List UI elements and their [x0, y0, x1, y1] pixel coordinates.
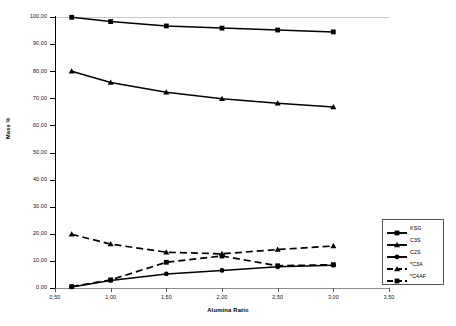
data-point-marker [275, 263, 280, 268]
data-point-marker [220, 26, 225, 31]
data-point-marker [395, 231, 400, 236]
data-point-marker [69, 284, 74, 289]
data-point-marker [395, 279, 400, 284]
series-line [72, 265, 334, 287]
data-point-marker [69, 231, 75, 236]
legend-item-c4af[interactable]: *C4AF [386, 271, 441, 283]
data-point-marker [220, 268, 225, 273]
legend-swatch-icon [386, 272, 408, 282]
data-point-marker [69, 15, 74, 20]
data-point-marker [330, 243, 336, 248]
legend-item-c2s[interactable]: C2S [386, 247, 441, 259]
series-ksg [69, 15, 335, 34]
data-point-marker [395, 255, 400, 260]
legend-label: C2S [410, 250, 421, 255]
chart-figure: 0,0010,0020,0030,0040,0050,0060,0070,008… [0, 0, 456, 326]
legend-swatch-icon [386, 248, 408, 258]
legend-item-c3s[interactable]: C3S [386, 235, 441, 247]
legend-label: *C3A [410, 262, 423, 267]
data-point-marker [164, 24, 169, 29]
chart-legend: KSGC3SC2S*C3A*C4AF [382, 219, 444, 285]
legend-label: *C4AF [410, 274, 426, 279]
data-point-marker [108, 19, 113, 24]
data-point-marker [108, 277, 113, 282]
data-point-marker [164, 272, 169, 277]
data-point-marker [275, 28, 280, 33]
series-line [72, 71, 334, 107]
data-point-marker [164, 260, 169, 265]
legend-swatch-icon [386, 236, 408, 246]
data-point-marker [331, 262, 336, 267]
data-point-marker [220, 254, 225, 259]
legend-item-c3a[interactable]: *C3A [386, 259, 441, 271]
legend-item-ksg[interactable]: KSG [386, 223, 441, 235]
legend-label: C3S [410, 238, 421, 243]
series-c3s [69, 68, 337, 109]
series-c2s [69, 263, 335, 289]
data-point-marker [69, 68, 75, 73]
legend-swatch-icon [386, 260, 408, 270]
legend-swatch-icon [386, 224, 408, 234]
legend-label: KSG [410, 226, 422, 231]
data-point-marker [331, 30, 336, 35]
series-c3a [69, 231, 337, 256]
